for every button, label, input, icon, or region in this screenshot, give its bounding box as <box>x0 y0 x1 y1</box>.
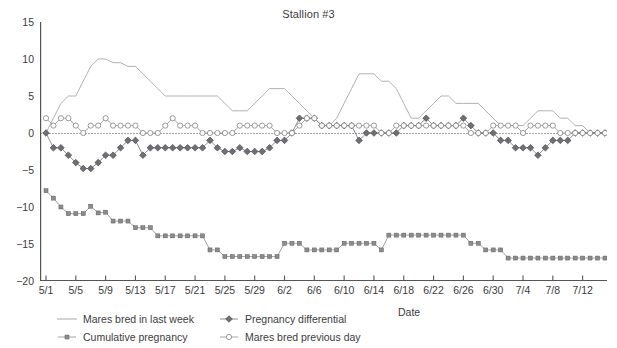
legend-marker-filled-diamond-icon <box>218 313 240 325</box>
x-tick-label: 5/29 <box>244 284 264 296</box>
series-1 <box>44 189 607 260</box>
x-tick-label: 6/30 <box>483 284 503 296</box>
legend-item[interactable]: Pregnancy differential <box>218 310 346 327</box>
x-tick-label: 6/14 <box>364 284 384 296</box>
y-tick-label: −20 <box>16 275 34 287</box>
x-tick-label: 6/22 <box>423 284 443 296</box>
x-tick-label: 7/12 <box>572 284 592 296</box>
legend-marker-line-icon <box>56 313 78 325</box>
x-tick-label: 5/13 <box>125 284 145 296</box>
y-tick-label: 5 <box>28 90 34 102</box>
x-tick-label: 7/4 <box>516 284 531 296</box>
x-tick-label: 5/1 <box>39 284 54 296</box>
x-tick-label: 6/18 <box>394 284 414 296</box>
plot-svg <box>40 22 607 281</box>
y-tick-label: 15 <box>22 16 34 28</box>
legend-label: Pregnancy differential <box>245 313 346 325</box>
y-tick-label: 0 <box>28 127 34 139</box>
y-tick-label: −10 <box>16 201 34 213</box>
y-tick-label: 10 <box>22 53 34 65</box>
legend-marker-filled-square-icon <box>56 331 78 343</box>
chart-legend: Mares bred in last weekPregnancy differe… <box>56 310 396 346</box>
x-tick-label: 6/26 <box>453 284 473 296</box>
y-tick-label: −15 <box>16 238 34 250</box>
y-tick-label: −5 <box>22 164 34 176</box>
y-axis-tick-labels: 151050−5−10−15−20 <box>0 22 34 281</box>
legend-item[interactable]: Cumulative pregnancy <box>56 328 187 345</box>
x-tick-label: 6/10 <box>334 284 354 296</box>
plot-area <box>40 22 607 281</box>
x-tick-label: 6/2 <box>277 284 292 296</box>
x-axis-title: Date <box>398 306 420 318</box>
legend-item[interactable]: Mares bred previous day <box>218 328 361 345</box>
x-tick-label: 7/8 <box>546 284 561 296</box>
legend-marker-open-circle-icon <box>218 331 240 343</box>
x-tick-label: 5/21 <box>185 284 205 296</box>
legend-item[interactable]: Mares bred in last week <box>56 310 194 327</box>
x-tick-label: 5/17 <box>155 284 175 296</box>
legend-label: Mares bred in last week <box>83 313 194 325</box>
series-0 <box>46 59 605 133</box>
axis-group <box>40 22 607 281</box>
x-tick-label: 5/9 <box>98 284 113 296</box>
legend-label: Mares bred previous day <box>245 331 361 343</box>
chart-figure: Stallion #3 151050−5−10−15−20 5/15/55/95… <box>0 0 617 348</box>
chart-title: Stallion #3 <box>0 8 617 20</box>
legend-label: Cumulative pregnancy <box>83 331 187 343</box>
x-tick-label: 5/25 <box>215 284 235 296</box>
x-tick-label: 5/5 <box>69 284 84 296</box>
x-tick-label: 6/6 <box>307 284 322 296</box>
x-axis-tick-labels: 5/15/55/95/135/175/215/255/296/26/66/106… <box>40 284 607 300</box>
